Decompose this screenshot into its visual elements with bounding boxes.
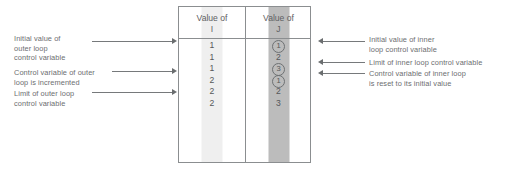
annotation-control-variable-outer-incremented: Control variable of outer loop is increm… [14,68,95,87]
cell-value: 1 [210,52,215,62]
column-i-header: Value of I [179,13,245,35]
table-cell: 1 [179,63,245,75]
table-cell: 1 [179,52,245,64]
leader-line-limit-outer [92,92,175,93]
cell-value: 2 [210,86,215,96]
table-cell: 2 [246,86,311,98]
column-i-header-line1: Value of [197,13,228,23]
column-j-header: Value of J [246,13,311,35]
column-i-values: 1 1 1 2 2 2 [179,40,245,110]
table-cell: 2 [179,75,245,87]
cell-value: 1 [210,40,215,50]
column-j: Value of J 1 2 3 1 2 3 [245,7,311,162]
table-cell: 1 [179,40,245,52]
table-cell: 1 [246,75,311,87]
column-j-header-letter: J [246,24,311,35]
annotation-initial-value-outer: Initial value of outer loop control vari… [14,34,65,63]
column-j-header-rule [246,38,311,39]
cell-value: 2 [210,98,215,108]
table-cell: 1 [246,40,311,52]
table-cell: 2 [179,86,245,98]
diagram-canvas: Initial value of outer loop control vari… [0,0,526,170]
table-cell: 2 [246,52,311,64]
column-i-header-letter: I [179,24,245,35]
trace-table: Value of I 1 1 1 2 2 2 Value of J 1 2 [178,6,311,163]
arrow-head-limit-outer [172,89,177,95]
leader-line-limit-inner [323,62,365,63]
arrow-head-control-variable-outer [172,68,177,74]
table-cell: 3 [246,98,311,110]
column-j-header-line1: Value of [263,13,294,23]
cell-value: 1 [210,63,215,73]
cell-value: 2 [276,52,281,62]
annotation-control-variable-inner-reset: Control variable of inner loop is reset … [369,69,466,88]
annotation-limit-outer: Limit of outer loop control variable [14,89,74,108]
leader-line-initial-value-inner [323,41,365,42]
annotation-limit-inner: Limit of inner loop control variable [369,58,482,68]
cell-value: 3 [276,98,281,108]
cell-value: 2 [276,86,281,96]
leader-line-initial-value-outer [92,41,175,42]
column-j-values: 1 2 3 1 2 3 [246,40,311,110]
cell-value: 2 [210,75,215,85]
arrow-head-initial-value-outer [172,38,177,44]
leader-line-control-variable-outer [112,71,175,72]
table-cell: 3 [246,63,311,75]
annotation-initial-value-inner: Initial value of inner loop control vari… [369,35,437,54]
table-cell: 2 [179,98,245,110]
column-i-header-rule [179,38,245,39]
column-i: Value of I 1 1 1 2 2 2 [179,7,245,162]
leader-line-control-variable-inner-reset [323,73,365,74]
